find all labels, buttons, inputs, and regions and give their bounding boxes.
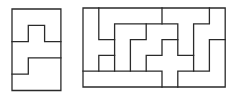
piece-boundary [115, 24, 194, 71]
outer-border [12, 9, 61, 91]
piece-boundary [99, 55, 115, 71]
piece-boundary [12, 25, 61, 41]
piece-boundary [130, 24, 146, 71]
tiling-diagram [0, 0, 235, 98]
small-tiling-figure [12, 9, 61, 91]
piece-boundary [194, 8, 226, 71]
piece-boundary [12, 58, 61, 74]
piece-boundary [146, 40, 178, 72]
piece-boundary [178, 71, 194, 87]
outer-border [83, 8, 225, 87]
large-tiling-figure [83, 8, 225, 87]
piece-boundary [83, 71, 162, 87]
piece-boundary [99, 8, 115, 40]
